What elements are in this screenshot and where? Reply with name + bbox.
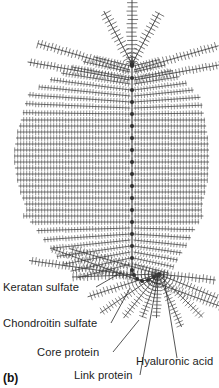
- proteoglycan-aggregate-figure: Keratan sulfate Chondroitin sulfate Core…: [0, 0, 219, 388]
- label-hyaluronic-acid: Hyaluronic acid: [136, 355, 213, 367]
- figure-caption: (b): [3, 371, 18, 385]
- label-core-protein: Core protein: [37, 346, 99, 358]
- label-keratan-sulfate: Keratan sulfate: [3, 281, 79, 293]
- label-chondroitin-sulfate: Chondroitin sulfate: [3, 317, 97, 329]
- diagram-canvas: Keratan sulfate Chondroitin sulfate Core…: [0, 0, 219, 388]
- label-link-protein: Link protein: [74, 369, 132, 381]
